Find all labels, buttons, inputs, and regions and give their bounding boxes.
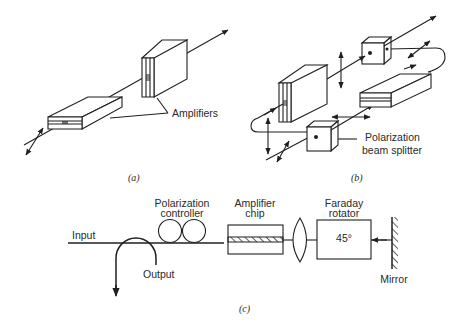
polarization-beam-splitter-lower — [307, 121, 338, 151]
polarization-arrow — [408, 41, 430, 58]
beam-arrow — [264, 108, 276, 115]
lens — [293, 218, 307, 262]
amplifier-slab-vertical — [279, 65, 327, 122]
beam-arrow — [404, 65, 416, 69]
output-label: Output — [143, 268, 175, 280]
amplifier-slab-vertical — [142, 40, 187, 97]
input-label: Input — [72, 229, 95, 241]
splitter-label-line2: beam splitter — [362, 144, 423, 156]
polarization-arrow — [26, 128, 43, 155]
panel-b: Polarization beam splitter (b) — [251, 16, 445, 184]
leader-line — [157, 98, 168, 113]
leader-line — [110, 113, 168, 118]
amplifier-slab-horizontal — [48, 97, 122, 129]
rotation-angle-label: 45° — [336, 232, 352, 244]
pol-controller-label-line2: controller — [160, 207, 204, 219]
output-beam — [384, 16, 436, 46]
amp-chip-label-line2: chip — [245, 207, 264, 219]
caption-c: (c) — [239, 303, 251, 315]
polarization-controller — [159, 220, 206, 243]
caption-a: (a) — [128, 172, 140, 184]
splitter-label-line1: Polarization — [365, 131, 420, 143]
amplifiers-label: Amplifiers — [172, 107, 218, 119]
output-fiber — [116, 238, 156, 293]
caption-b: (b) — [351, 172, 363, 184]
polarization-arrow — [277, 141, 289, 162]
amplifier-slab-horizontal — [360, 74, 431, 107]
polarization-beam-splitter-upper — [362, 37, 391, 64]
beam-line — [327, 56, 365, 79]
mirror-label: Mirror — [380, 273, 408, 285]
panel-a: Amplifiers (a) — [24, 30, 228, 184]
amplifier-chip — [228, 225, 283, 254]
optical-amplifier-diagram: Amplifiers (a) — [0, 0, 466, 329]
faraday-label-line2: rotator — [329, 207, 360, 219]
mirror — [392, 217, 398, 269]
panel-c: Input Output Polarization controller Amp… — [68, 197, 408, 315]
